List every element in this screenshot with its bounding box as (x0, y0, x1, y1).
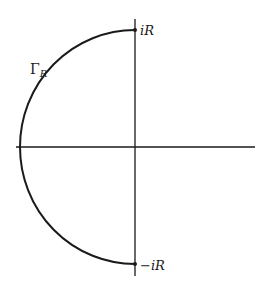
curve-label: ΓR (30, 61, 48, 79)
bottom-point-dot (133, 262, 137, 266)
top-point-dot (133, 28, 137, 32)
bottom-point-label: −iR (140, 258, 165, 273)
curve-label-gamma: Γ (30, 61, 40, 77)
top-point-label: iR (140, 23, 154, 38)
contour-diagram: iR −iR ΓR (0, 0, 267, 293)
curve-label-subscript: R (39, 68, 48, 79)
